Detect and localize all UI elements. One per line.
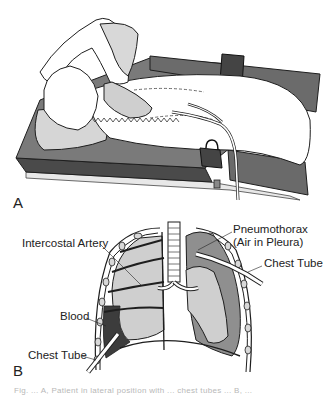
panel-label-a: A — [13, 194, 23, 211]
panel-a-illustration — [16, 18, 320, 200]
panel-label-b: B — [13, 362, 23, 379]
medical-figure: A — [0, 0, 336, 397]
label-pneumothorax: Pneumothorax — [233, 223, 308, 235]
label-chest-tube-right: Chest Tube — [264, 257, 323, 269]
label-chest-tube-left: Chest Tube — [28, 349, 87, 361]
label-intercostal-artery: Intercostal Artery — [22, 237, 109, 249]
label-blood: Blood — [60, 310, 89, 322]
figure-caption: Fig. ... A, Patient in lateral position … — [14, 386, 336, 395]
label-air-in-pleura: (Air in Pleura) — [233, 236, 303, 248]
